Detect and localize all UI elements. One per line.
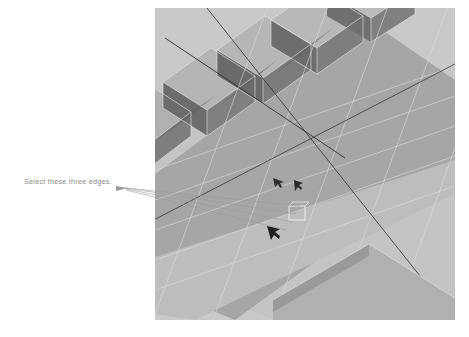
annotation-leader-lines bbox=[0, 0, 469, 337]
leader-line bbox=[126, 189, 293, 222]
leader-line bbox=[126, 188, 300, 206]
tutorial-screenshot: Select these three edges. bbox=[0, 0, 469, 337]
leader-line bbox=[126, 188, 296, 214]
